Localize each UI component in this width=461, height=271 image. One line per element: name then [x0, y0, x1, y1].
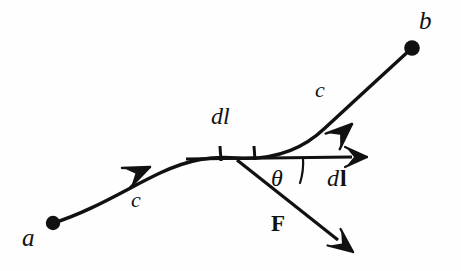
curve-c-path — [53, 48, 412, 223]
dl-segment-tick-left — [220, 146, 221, 161]
point-a-dot — [46, 216, 60, 230]
dl-vector-label: dl — [327, 166, 347, 190]
dl-vector-shaft — [186, 157, 352, 159]
dl-vector-label-d: d — [327, 165, 339, 191]
force-vector-shaft — [237, 160, 338, 240]
dl-segment-tick-right — [254, 146, 255, 160]
dl-vector-label-l: l — [339, 165, 347, 191]
force-vector-label: F — [271, 212, 285, 235]
figure-canvas — [0, 0, 461, 271]
physics-line-integral-figure: a b c c dl dl θ F — [0, 0, 461, 271]
theta-angle-label: θ — [271, 166, 283, 190]
point-b-label: b — [419, 8, 432, 33]
dl-scalar-label: dl — [211, 104, 230, 128]
point-b-dot — [404, 40, 420, 56]
theta-angle-arc — [300, 158, 303, 183]
curve-label-upper: c — [315, 79, 325, 101]
point-a-label: a — [22, 225, 35, 250]
curve-label-lower: c — [131, 189, 141, 211]
